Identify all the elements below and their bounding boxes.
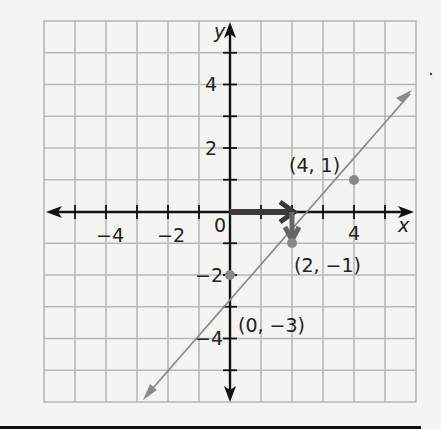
point-2-neg1 — [287, 238, 297, 248]
y-tick-label-4: 4 — [205, 73, 217, 95]
y-axis-label: y — [213, 20, 226, 42]
stray-dot — [430, 73, 432, 75]
line-upper-arrow-icon — [396, 90, 412, 103]
x-tick-label-4: 4 — [348, 222, 360, 244]
point-label-0-neg3: (0, −3) — [238, 314, 305, 336]
y-tick-label-2: 2 — [205, 137, 217, 159]
y-tick-label-neg2: −2 — [195, 264, 223, 286]
point-label-2-neg1: (2, −1) — [294, 254, 361, 276]
slope-arrows — [230, 202, 299, 240]
point-label-4-1: (4, 1) — [289, 154, 340, 176]
y-tick-label-neg4: −4 — [195, 327, 223, 349]
origin-label: 0 — [214, 214, 226, 236]
coordinate-plane: y x 0 −4 −2 4 4 2 −2 −4 (4, 1) (2, −1) (… — [0, 0, 441, 429]
point-0-neg3 — [225, 270, 235, 280]
point-4-1 — [349, 175, 359, 185]
x-tick-label-neg2: −2 — [157, 224, 185, 246]
x-axis-label: x — [397, 214, 410, 236]
x-tick-label-neg4: −4 — [96, 224, 124, 246]
